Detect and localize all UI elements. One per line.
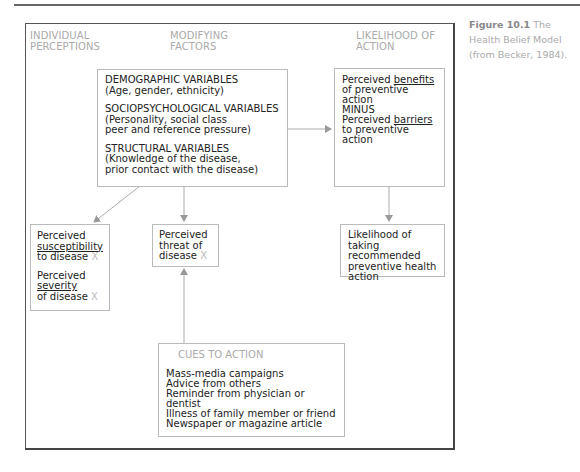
modifying-factors-box: DEMOGRAPHIC VARIABLES (Age, gender, ethn… <box>97 69 288 187</box>
x-mark: X <box>91 291 98 302</box>
cue-item: Newspaper or magazine article <box>166 419 337 429</box>
cues-to-action-box: CUES TO ACTION Mass-media campaigns Advi… <box>158 343 345 437</box>
likelihood-action-box: Likelihood of taking recommended prevent… <box>340 224 445 277</box>
threat-box: Perceived threat of disease X <box>152 224 219 267</box>
figure-label: Figure 10.1 <box>469 19 530 30</box>
x-mark: X <box>91 251 98 262</box>
susceptibility-severity-box: Perceived susceptibility to disease X Pe… <box>30 224 110 311</box>
benefits-barriers-box: Perceived benefits of preventive action … <box>334 68 445 187</box>
x-mark: X <box>200 250 207 261</box>
cue-item: Reminder from physician or dentist <box>166 389 337 409</box>
cues-title: CUES TO ACTION <box>166 350 337 360</box>
figure-caption: Figure 10.1 The Health Belief Model (fro… <box>469 17 577 62</box>
